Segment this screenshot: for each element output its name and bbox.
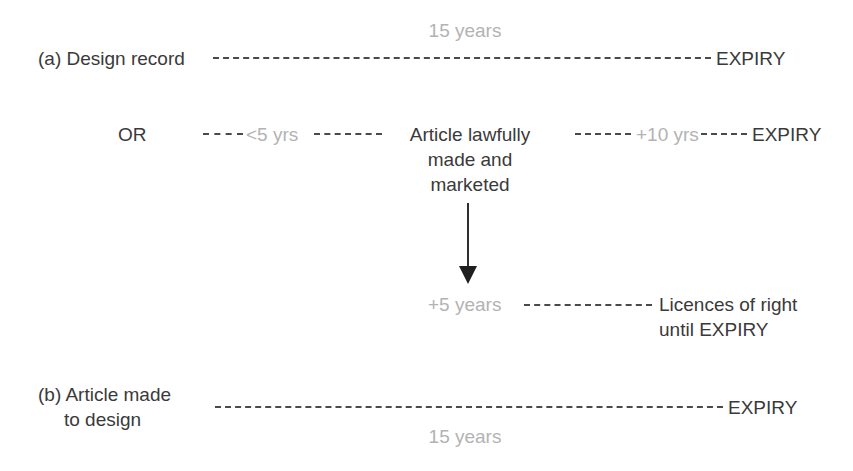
row-a-dashed-connector	[213, 57, 711, 59]
article-block-line-1: Article lawfully	[410, 124, 530, 145]
down-arrow-icon	[450, 200, 486, 290]
licences-line-1: Licences of right	[659, 294, 797, 315]
or-second-duration-label: +10 yrs	[636, 122, 699, 147]
licences-duration-label: +5 years	[428, 292, 501, 317]
row-b-label-line-2: to design	[38, 407, 208, 432]
or-first-duration-label: <5 yrs	[246, 122, 298, 147]
or-expiry-label: EXPIRY	[752, 122, 821, 147]
or-dashed-connector-4	[701, 133, 747, 135]
row-b-dashed-connector	[215, 406, 723, 408]
licences-of-right-block: Licences of right until EXPIRY	[659, 292, 829, 342]
or-label: OR	[118, 122, 147, 147]
design-right-duration-diagram: (a) Design record 15 years EXPIRY OR <5 …	[0, 0, 853, 471]
licences-line-2: until EXPIRY	[659, 319, 768, 340]
article-lawfully-made-block: Article lawfully made and marketed	[370, 122, 570, 197]
article-block-line-2: made and	[428, 149, 513, 170]
row-b-label-line-1: (b) Article made	[38, 384, 171, 405]
article-block-line-3: marketed	[430, 174, 509, 195]
row-a-label: (a) Design record	[38, 46, 185, 71]
row-a-duration-label: 15 years	[365, 18, 565, 43]
row-b-label: (b) Article made to design	[38, 382, 208, 432]
or-dashed-connector-3	[575, 133, 631, 135]
or-dashed-connector-1	[203, 133, 243, 135]
row-b-expiry-label: EXPIRY	[728, 395, 797, 420]
row-b-duration-label: 15 years	[365, 424, 565, 449]
licences-dashed-connector	[524, 304, 652, 306]
row-a-expiry-label: EXPIRY	[716, 46, 785, 71]
